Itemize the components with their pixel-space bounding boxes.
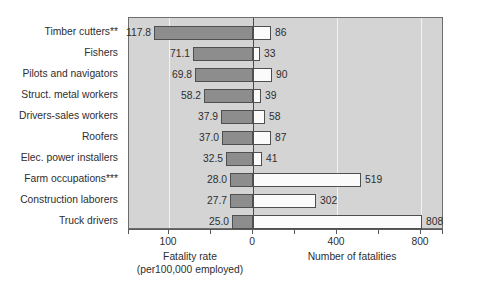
- fatality-rate-value-label: 69.8: [172, 68, 192, 82]
- category-label: Timber cutters**: [0, 26, 118, 37]
- category-label: Struct. metal workers: [0, 89, 118, 100]
- fatality-rate-bar: [204, 89, 253, 103]
- fatality-count-value-label: 33: [264, 47, 275, 61]
- fatality-rate-bar: [230, 194, 253, 208]
- bar-row: 69.890: [129, 68, 442, 82]
- category-label: Fishers: [0, 47, 118, 58]
- category-label: Farm occupations***: [0, 173, 118, 184]
- category-label: Drivers-sales workers: [0, 110, 118, 121]
- fatality-rate-bar: [230, 173, 253, 187]
- bar-row: 28.0519: [129, 173, 442, 187]
- fatality-rate-bar: [222, 131, 253, 145]
- fatality-rate-value-label: 27.7: [207, 194, 227, 208]
- fatality-rate-bar: [195, 68, 253, 82]
- axis-tick: [442, 229, 443, 234]
- fatality-count-bar: [253, 68, 272, 82]
- bar-row: 27.7302: [129, 194, 442, 208]
- bar-row: 117.886: [129, 26, 442, 40]
- fatality-count-bar: [253, 47, 260, 61]
- tick-label-right-400: 400: [327, 236, 344, 248]
- fatality-rate-bar: [221, 110, 253, 124]
- bar-row: 25.0808: [129, 215, 442, 229]
- fatality-rate-bar: [193, 47, 253, 61]
- fatality-rate-bar: [232, 215, 253, 229]
- bar-row: 32.541: [129, 152, 442, 166]
- left-axis-title: Fatality rate: [163, 251, 217, 263]
- axis-tick: [336, 229, 337, 234]
- fatality-rate-value-label: 117.8: [126, 26, 151, 40]
- tick-label-left-100: 100: [159, 236, 176, 248]
- axis-tick: [168, 229, 169, 234]
- bar-row: 37.958: [129, 110, 442, 124]
- axis-tick: [294, 229, 295, 234]
- left-axis-subtitle: (per100,000 employed): [137, 264, 243, 276]
- fatality-rate-value-label: 37.0: [199, 131, 219, 145]
- plot-area: 117.88671.13369.89058.23937.95837.08732.…: [128, 17, 443, 229]
- fatality-count-bar: [253, 26, 271, 40]
- fatality-count-bar: [253, 131, 271, 145]
- category-label: Pilots and navigators: [0, 68, 118, 79]
- fatality-rate-value-label: 71.1: [170, 47, 190, 61]
- fatality-rate-value-label: 32.5: [203, 152, 223, 166]
- bar-row: 37.087: [129, 131, 442, 145]
- bar-row: 58.239: [129, 89, 442, 103]
- fatality-rate-value-label: 28.0: [207, 173, 227, 187]
- axis-tick: [128, 229, 129, 234]
- fatality-count-bar: [253, 194, 316, 208]
- fatality-count-value-label: 58: [269, 110, 280, 124]
- value-axis: [128, 229, 443, 235]
- axis-line: [128, 229, 443, 230]
- fatality-count-bar: [253, 110, 265, 124]
- fatality-count-value-label: 39: [265, 89, 276, 103]
- fatality-count-value-label: 302: [320, 194, 337, 208]
- category-label: Roofers: [0, 131, 118, 142]
- fatality-count-value-label: 87: [275, 131, 286, 145]
- fatality-rate-bar: [154, 26, 253, 40]
- right-axis-title: Number of fatalities: [308, 251, 397, 263]
- category-label: Elec. power installers: [0, 152, 118, 163]
- category-label: Truck drivers: [0, 215, 118, 226]
- fatality-count-bar: [253, 215, 422, 229]
- fatality-rate-bar: [226, 152, 253, 166]
- fatality-count-value-label: 86: [275, 26, 286, 40]
- tick-label-zero: 0: [249, 236, 255, 248]
- fatality-rate-value-label: 37.9: [198, 110, 218, 124]
- axis-tick: [252, 229, 253, 234]
- category-label: Construction laborers: [0, 194, 118, 205]
- fatality-count-bar: [253, 173, 361, 187]
- fatality-rate-value-label: 25.0: [209, 215, 229, 229]
- fatality-count-bar: [253, 152, 262, 166]
- bar-row: 71.133: [129, 47, 442, 61]
- axis-tick: [420, 229, 421, 234]
- fatality-count-value-label: 41: [266, 152, 277, 166]
- fatality-count-value-label: 519: [365, 173, 382, 187]
- fatality-count-value-label: 90: [276, 68, 287, 82]
- fatality-count-bar: [253, 89, 261, 103]
- fatality-bar-chart: Timber cutters**FishersPilots and naviga…: [0, 0, 491, 289]
- axis-tick: [210, 229, 211, 234]
- axis-tick: [378, 229, 379, 234]
- category-axis-labels: Timber cutters**FishersPilots and naviga…: [0, 17, 122, 229]
- fatality-count-value-label: 808: [426, 215, 443, 229]
- fatality-rate-value-label: 58.2: [181, 89, 201, 103]
- tick-label-right-800: 800: [411, 236, 428, 248]
